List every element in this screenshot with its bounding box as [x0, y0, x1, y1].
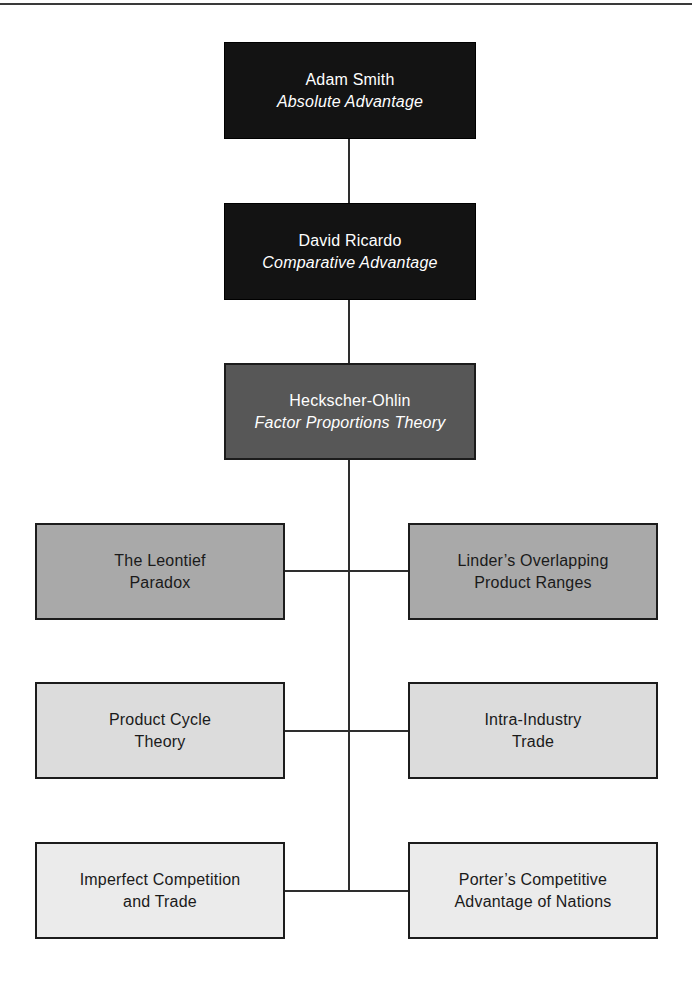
node-title: The Leontief	[114, 550, 205, 572]
connector-row-leontief-linder	[285, 570, 408, 572]
node-porters-competitive-advantage-of-nations: Porter’s Competitive Advantage of Nation…	[408, 842, 658, 939]
trade-theory-evolution-figure: Adam Smith Absolute Advantage David Rica…	[0, 0, 692, 985]
node-adam-smith: Adam Smith Absolute Advantage	[224, 42, 476, 139]
node-linders-overlapping-product-ranges: Linder’s Overlapping Product Ranges	[408, 523, 658, 620]
node-title: Product Cycle	[109, 709, 211, 731]
node-subtitle: Comparative Advantage	[262, 252, 437, 274]
node-title-line2: Trade	[512, 731, 554, 753]
node-product-cycle-theory: Product Cycle Theory	[35, 682, 285, 779]
node-title: Porter’s Competitive	[459, 869, 607, 891]
node-subtitle: Factor Proportions Theory	[255, 412, 446, 434]
node-heckscher-ohlin: Heckscher-Ohlin Factor Proportions Theor…	[224, 363, 476, 460]
node-title-line2: and Trade	[123, 891, 197, 913]
node-title-line2: Paradox	[130, 572, 191, 594]
node-title: Linder’s Overlapping	[457, 550, 608, 572]
node-title: David Ricardo	[298, 230, 401, 252]
node-david-ricardo: David Ricardo Comparative Advantage	[224, 203, 476, 300]
node-subtitle: Absolute Advantage	[277, 91, 423, 113]
node-imperfect-competition-and-trade: Imperfect Competition and Trade	[35, 842, 285, 939]
node-title: Intra-Industry	[484, 709, 581, 731]
node-title-line2: Theory	[135, 731, 186, 753]
connector-row-productcycle-intraindustry	[285, 730, 408, 732]
node-title-line2: Product Ranges	[474, 572, 592, 594]
node-title: Heckscher-Ohlin	[289, 390, 410, 412]
node-leontief-paradox: The Leontief Paradox	[35, 523, 285, 620]
node-title: Adam Smith	[305, 69, 394, 91]
page-top-rule	[0, 3, 692, 5]
node-title-line2: Advantage of Nations	[455, 891, 612, 913]
connector-row-imperfect-porter	[285, 890, 408, 892]
node-title: Imperfect Competition	[80, 869, 241, 891]
node-intra-industry-trade: Intra-Industry Trade	[408, 682, 658, 779]
